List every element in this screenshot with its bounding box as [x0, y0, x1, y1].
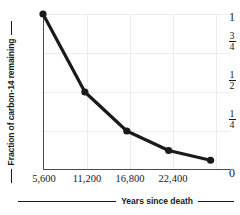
decay-curve-series	[43, 14, 230, 170]
data-point-11200	[123, 127, 130, 134]
x-tick-label-5600: 5,600	[21, 173, 67, 184]
x-axis-title-text: Years since death	[121, 196, 193, 206]
y-axis-title-block: Fraction of carbon-14 remaining	[0, 8, 22, 194]
decay-polyline	[43, 14, 211, 160]
x-axis-title-rule-end	[198, 201, 234, 202]
data-point-5600	[81, 88, 88, 95]
y-axis-title-text: Fraction of carbon-14 remaining	[6, 39, 16, 166]
y-axis-title-rule-end	[11, 21, 12, 35]
data-point-0	[39, 10, 46, 17]
y-axis-title-rule-start	[11, 169, 12, 183]
x-tick-label-11200: 11,200	[64, 173, 110, 184]
data-point-22400	[207, 157, 214, 164]
data-point-16800	[165, 147, 172, 154]
x-axis-title-block: Years since death	[18, 193, 234, 209]
x-tick-label-16800: 16,800	[107, 173, 153, 184]
x-tick-label-22400: 22,400	[150, 173, 196, 184]
x-axis-title-rule-start	[18, 201, 116, 202]
carbon-14-decay-chart: Fraction of carbon-14 remaining 1 3 4 1 …	[0, 0, 240, 215]
decay-data-points	[39, 10, 214, 163]
y-axis-title-rotated: Fraction of carbon-14 remaining	[2, 9, 20, 195]
plot-area	[43, 14, 230, 170]
